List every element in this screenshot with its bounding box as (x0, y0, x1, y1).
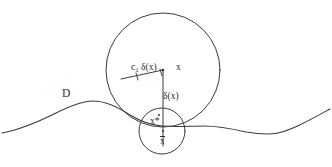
diagram-svg (0, 0, 332, 167)
label-point-x-star: x* (150, 117, 160, 127)
label-distance-delta: δ(x) (163, 92, 179, 102)
label-domain-D: D (62, 88, 70, 100)
label-point-x: x (176, 63, 181, 73)
point-x-bar-dot-icon (162, 130, 164, 132)
radius-tick-left-icon (136, 73, 138, 80)
label-point-x-bar: x (160, 136, 165, 147)
label-radius-value: δ(x) (139, 62, 157, 72)
label-radius-c1-delta: c1 δ(x) (131, 63, 157, 74)
domain-boundary-curve (2, 101, 330, 134)
label-point-x-bar-text: x (160, 136, 165, 147)
figure-canvas: D x c1 δ(x) δ(x) x* x (0, 0, 332, 167)
point-x-dot-icon (162, 69, 165, 72)
